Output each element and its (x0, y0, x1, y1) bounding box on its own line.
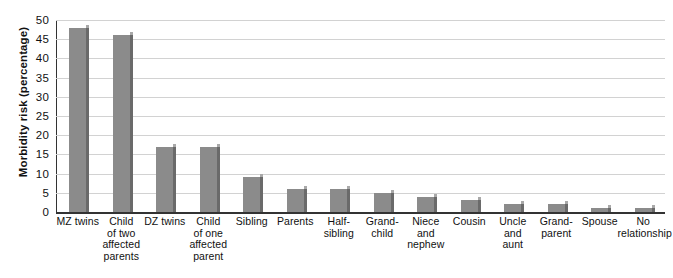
x-tick-label-line: affected (96, 239, 148, 251)
x-tick-label-line: parent (183, 251, 235, 263)
bar-slot (330, 20, 347, 212)
bar-top-bevel (434, 194, 437, 197)
bar-slot (287, 20, 304, 212)
bar-shadow (565, 204, 568, 212)
bar-top-bevel (217, 144, 220, 147)
y-tick-label: 15 (3, 148, 49, 160)
bar-top-bevel (652, 205, 655, 208)
bar (113, 35, 130, 212)
bar-slot (69, 20, 86, 212)
bar-slot (156, 20, 173, 212)
y-tick-label: 10 (3, 168, 49, 180)
bar (287, 189, 304, 212)
bar-slot (461, 20, 478, 212)
bar-top-bevel (130, 32, 133, 35)
bar (417, 197, 434, 212)
bar (591, 208, 608, 212)
bar-top-bevel (478, 197, 481, 200)
x-tick-label-line: affected (183, 239, 235, 251)
y-tick-label: 35 (3, 72, 49, 84)
bar-slot (374, 20, 391, 212)
y-tick-label: 50 (3, 14, 49, 26)
y-tick-label: 20 (3, 129, 49, 141)
bar-slot (113, 20, 130, 212)
x-tick-label-line: relationship (618, 228, 670, 240)
bar-shadow (217, 147, 220, 212)
bar-shadow (347, 189, 350, 212)
y-tick-label: 25 (3, 110, 49, 122)
x-axis-category-labels: MZ twinsChildof twoaffectedparentsDZ twi… (56, 216, 665, 278)
bar-shadow (304, 189, 307, 212)
bar-shadow (391, 193, 394, 212)
bar-shadow (130, 35, 133, 212)
bar-shadow (478, 200, 481, 212)
bar-slot (548, 20, 565, 212)
y-tick-label: 0 (3, 206, 49, 218)
bar (330, 189, 347, 212)
x-tick-label-line: parent (531, 228, 583, 240)
bar-slot (591, 20, 608, 212)
bar-slot (417, 20, 434, 212)
x-axis-line (56, 212, 665, 214)
bar-shadow (521, 204, 524, 212)
bar-shadow (173, 147, 176, 212)
bar (635, 208, 652, 212)
x-tick-label: Norelationship (618, 216, 670, 239)
bar (200, 147, 217, 212)
bars-layer (56, 20, 665, 212)
bar-shadow (260, 177, 263, 212)
bar (548, 204, 565, 212)
bar-top-bevel (260, 174, 263, 177)
bar-top-bevel (304, 186, 307, 189)
bar (243, 177, 260, 212)
x-tick-label-line: No (618, 216, 670, 228)
bar-shadow (86, 28, 89, 212)
bar-top-bevel (173, 144, 176, 147)
x-tick-label-line: nephew (400, 239, 452, 251)
bar (156, 147, 173, 212)
y-tick-label: 5 (3, 187, 49, 199)
bar-slot (635, 20, 652, 212)
bar-top-bevel (347, 186, 350, 189)
bar (69, 28, 86, 212)
y-tick-label: 45 (3, 33, 49, 45)
bar-top-bevel (565, 201, 568, 204)
y-tick-label: 40 (3, 52, 49, 64)
bar (374, 193, 391, 212)
x-tick-label-line: parents (96, 251, 148, 263)
bar-top-bevel (608, 205, 611, 208)
bar-shadow (434, 197, 437, 212)
bar-slot (200, 20, 217, 212)
bar (461, 200, 478, 212)
bar-shadow (652, 208, 655, 212)
bar-slot (504, 20, 521, 212)
bar-top-bevel (521, 201, 524, 204)
bar-chart: Morbidity risk (percentage) 504540353025… (0, 0, 673, 278)
bar-top-bevel (391, 190, 394, 193)
plot-area: 50454035302520151050 (56, 20, 665, 212)
bar (504, 204, 521, 212)
bar-top-bevel (86, 25, 89, 28)
bar-shadow (608, 208, 611, 212)
x-tick-label-line: aunt (487, 239, 539, 251)
y-tick-label: 30 (3, 91, 49, 103)
bar-slot (243, 20, 260, 212)
